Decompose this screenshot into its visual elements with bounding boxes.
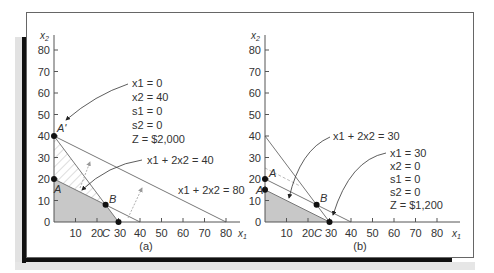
x-tick-label: 40 bbox=[134, 227, 146, 239]
y-tick-label: 50 bbox=[249, 109, 261, 121]
y-tick-label: 80 bbox=[249, 44, 261, 56]
y-tick-label: 40 bbox=[249, 130, 261, 142]
label-a-prime: A' bbox=[56, 122, 67, 134]
point-a bbox=[51, 176, 57, 182]
x-tick-label: 30 bbox=[325, 227, 337, 239]
point-a bbox=[262, 176, 268, 182]
x-tick-label: 40 bbox=[345, 227, 357, 239]
solution-a: x1 = 0 x2 = 40 s1 = 0 s2 = 0 Z = $2,000 bbox=[132, 77, 185, 145]
y-tick-label: 70 bbox=[38, 66, 50, 78]
y-tick-label: 40 bbox=[38, 130, 50, 142]
eq-label-40: x1 + 2x2 = 40 bbox=[147, 154, 214, 166]
label-a: A bbox=[268, 167, 276, 179]
x-tick-label: 80 bbox=[220, 227, 232, 239]
x-axis-label: x1 bbox=[237, 228, 247, 240]
svg-text:x1 = 30: x1 = 30 bbox=[390, 147, 426, 159]
point-c bbox=[116, 219, 122, 225]
y-tick-label: 30 bbox=[38, 152, 50, 164]
label-c: C bbox=[314, 227, 322, 239]
svg-text:x2 = 40: x2 = 40 bbox=[132, 91, 168, 103]
callout-arrow-icon bbox=[333, 153, 386, 215]
y-tick-label: 30 bbox=[249, 152, 261, 164]
y-tick-label: 80 bbox=[38, 44, 50, 56]
x-tick-label: 60 bbox=[388, 227, 400, 239]
panel-b: 0 10 20 30 40 50 60 70 80 x2 10 20 30 40… bbox=[249, 30, 461, 252]
point-b bbox=[103, 202, 109, 208]
panel-label-b: (b) bbox=[353, 240, 366, 252]
y-tick-label: 10 bbox=[249, 195, 261, 207]
y-axis-label: x2 bbox=[39, 30, 49, 42]
panel-a: 0 10 20 30 40 50 60 70 80 x2 10 20 30 40… bbox=[38, 30, 247, 252]
label-a: A bbox=[53, 183, 61, 195]
y-tick-label: 0 bbox=[255, 216, 261, 228]
y-tick-label: 20 bbox=[38, 173, 50, 185]
svg-text:Z = $1,200: Z = $1,200 bbox=[390, 199, 443, 211]
y-tick-label: 70 bbox=[249, 66, 261, 78]
x-tick-label: 70 bbox=[409, 227, 421, 239]
x-axis-label: x1 bbox=[451, 228, 461, 240]
eq-label-80: x1 + 2x2 = 80 bbox=[178, 184, 245, 196]
x-tick-label: 20 bbox=[302, 227, 314, 239]
label-c: C bbox=[102, 227, 110, 239]
y-tick-label: 0 bbox=[44, 216, 50, 228]
callout-arrow-icon bbox=[289, 137, 330, 198]
svg-text:s2 = 0: s2 = 0 bbox=[132, 119, 162, 131]
point-c bbox=[327, 219, 333, 225]
y-axis-label: x2 bbox=[250, 30, 260, 42]
svg-text:s1 = 0: s1 = 0 bbox=[132, 105, 162, 117]
x-tick-label: 50 bbox=[155, 227, 167, 239]
y-tick-label: 10 bbox=[38, 195, 50, 207]
x-tick-label: 80 bbox=[431, 227, 443, 239]
solution-b: x1 = 30 x2 = 0 s1 = 0 s2 = 0 Z = $1,200 bbox=[390, 147, 443, 211]
svg-text:s1 = 0: s1 = 0 bbox=[390, 173, 420, 185]
label-b: B bbox=[320, 192, 327, 204]
y-tick-label: 50 bbox=[38, 109, 50, 121]
y-tick-label: 60 bbox=[249, 87, 261, 99]
svg-text:x2 = 0: x2 = 0 bbox=[390, 160, 420, 172]
x-tick-label: 50 bbox=[366, 227, 378, 239]
point-b bbox=[314, 202, 320, 208]
panel-label-a: (a) bbox=[139, 240, 152, 252]
x-tick-label: 70 bbox=[198, 227, 210, 239]
callout-arrow-icon bbox=[66, 84, 128, 120]
y-tick-label: 60 bbox=[38, 87, 50, 99]
eq-label-30: x1 + 2x2 = 30 bbox=[333, 130, 400, 142]
svg-text:s2 = 0: s2 = 0 bbox=[390, 186, 420, 198]
shift-arrow-icon bbox=[128, 188, 142, 218]
svg-text:x1 = 0: x1 = 0 bbox=[132, 77, 162, 89]
x-tick-label: 30 bbox=[114, 227, 126, 239]
figure-svg: 0 10 20 30 40 50 60 70 80 x2 10 20 30 40… bbox=[0, 0, 494, 273]
x-tick-label: 10 bbox=[280, 227, 292, 239]
x-tick-label: 10 bbox=[69, 227, 81, 239]
label-b: B bbox=[109, 193, 116, 205]
svg-text:Z = $2,000: Z = $2,000 bbox=[132, 133, 185, 145]
label-a-prime: A' bbox=[255, 184, 266, 196]
x-tick-label: 60 bbox=[177, 227, 189, 239]
